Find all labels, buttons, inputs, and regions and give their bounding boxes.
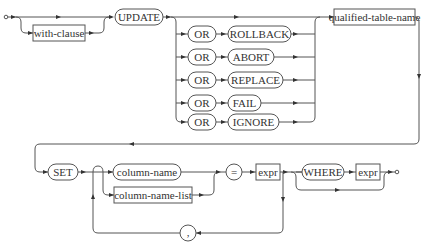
svg-text:REPLACE: REPLACE [231, 74, 280, 86]
arrow-icon [181, 78, 186, 82]
column-name-list-branch-in [103, 172, 114, 195]
column-name-list-branch-out [192, 172, 219, 195]
arrow-icon [89, 31, 94, 35]
or-keyword[interactable]: OR [188, 49, 216, 65]
end-marker [395, 170, 399, 174]
svg-text:OR: OR [194, 116, 210, 128]
set-label: SET [53, 166, 73, 178]
with-clause-label: with-clause [34, 27, 85, 39]
arrow-icon [81, 170, 86, 174]
expr-node[interactable]: expr [256, 164, 280, 180]
fail-keyword[interactable]: FAIL [228, 95, 261, 111]
where-label: WHERE [303, 166, 342, 178]
or-keyword[interactable]: OR [188, 72, 216, 88]
arrow-icon [281, 197, 285, 202]
arrow-icon [221, 55, 226, 59]
svg-text:ABORT: ABORT [233, 51, 270, 63]
or-keyword[interactable]: OR [188, 26, 216, 42]
svg-text:FAIL: FAIL [233, 97, 257, 109]
arrow-icon [91, 194, 95, 199]
arrow-icon [28, 31, 33, 35]
arrow-icon [129, 142, 134, 146]
row-wrap-connector [35, 17, 419, 172]
svg-text:OR: OR [194, 74, 210, 86]
arrow-icon [221, 120, 226, 124]
qualified-table-name-label: qualified-table-name [329, 11, 421, 23]
update-keyword[interactable]: UPDATE [115, 9, 163, 25]
arrow-icon [181, 101, 186, 105]
arrow-icon [43, 170, 48, 174]
column-name-label: column-name [117, 166, 178, 178]
loop-arch [93, 166, 103, 172]
arrow-icon [221, 32, 226, 36]
arrow-icon [349, 170, 354, 174]
arrow-icon [11, 15, 16, 19]
arrow-icon [250, 170, 255, 174]
column-name-node[interactable]: column-name [113, 164, 181, 180]
arrow-icon [166, 15, 171, 19]
arrow-icon [234, 15, 239, 19]
svg-text:ROLLBACK: ROLLBACK [230, 28, 289, 40]
where-expr-node[interactable]: expr [356, 164, 380, 180]
abort-keyword[interactable]: ABORT [228, 49, 274, 65]
arrow-icon [199, 193, 204, 197]
arrow-icon [293, 32, 298, 36]
rollback-keyword[interactable]: ROLLBACK [228, 26, 291, 42]
or-keyword[interactable]: OR [188, 95, 216, 111]
expr-label: expr [258, 166, 278, 178]
arrow-icon [181, 55, 186, 59]
qualified-table-name-node[interactable]: qualified-table-name [329, 9, 421, 25]
arrow-icon [293, 120, 298, 124]
arrow-icon [181, 32, 186, 36]
svg-text:OR: OR [194, 97, 210, 109]
arrow-icon [293, 101, 298, 105]
with-clause-branch-in [16, 17, 33, 33]
arrow-icon [293, 78, 298, 82]
where-keyword[interactable]: WHERE [302, 164, 344, 180]
column-name-list-node[interactable]: column-name-list [114, 187, 192, 203]
arrow-icon [109, 15, 114, 19]
equals-label: = [231, 166, 237, 178]
arrow-icon [181, 120, 186, 124]
arrow-icon [196, 231, 201, 235]
with-clause-node[interactable]: with-clause [33, 25, 85, 41]
svg-text:IGNORE: IGNORE [233, 116, 275, 128]
or-options-right-rail [310, 17, 320, 122]
arrow-icon [221, 101, 226, 105]
ignore-keyword[interactable]: IGNORE [228, 114, 279, 130]
comma-label: , [187, 226, 190, 238]
or-options-left-rail [171, 17, 181, 122]
arrow-icon [293, 55, 298, 59]
comma-loop-right [196, 172, 283, 233]
arrow-icon [221, 78, 226, 82]
arrow-icon [56, 15, 61, 19]
arrow-icon [108, 170, 113, 174]
update-label: UPDATE [118, 11, 160, 23]
comma-separator[interactable]: , [180, 225, 196, 241]
arrow-icon [283, 170, 288, 174]
arrow-icon [335, 188, 340, 192]
syntax-diagram: with-clause UPDATE OR ROLLBACK OR ABORT [0, 0, 421, 250]
set-keyword[interactable]: SET [48, 164, 78, 180]
replace-keyword[interactable]: REPLACE [228, 72, 283, 88]
svg-text:OR: OR [194, 51, 210, 63]
where-expr-label: expr [358, 166, 378, 178]
equals-operator[interactable]: = [226, 164, 242, 180]
svg-text:OR: OR [194, 28, 210, 40]
or-keyword[interactable]: OR [188, 114, 216, 130]
arrow-icon [417, 74, 421, 79]
start-marker [4, 15, 8, 19]
column-name-list-label: column-name-list [114, 189, 192, 201]
with-clause-branch-out [85, 17, 109, 33]
